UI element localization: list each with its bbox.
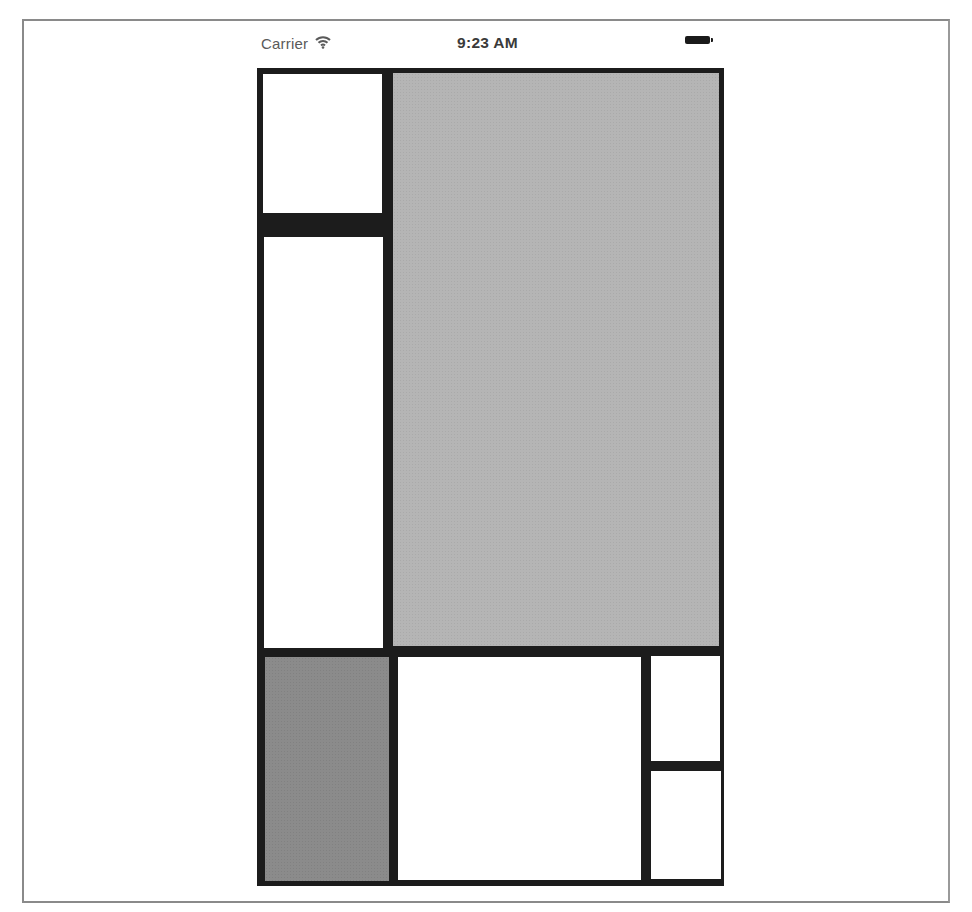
bottom-right-top-view [651,656,720,761]
clock-time: 9:23 AM [457,34,518,52]
bottom-right-bottom-view [651,771,721,879]
bottom-middle-view [398,657,641,880]
mondrian-layout-container [257,68,724,886]
bottom-left-view [265,657,389,881]
battery-full-icon [685,36,710,44]
top-left-view [263,74,382,213]
left-tall-view [264,237,383,648]
wifi-icon [315,35,331,49]
status-bar: Carrier 9:23 AM [255,28,730,58]
carrier-label: Carrier [261,35,308,52]
main-view [393,73,719,646]
battery-tip-icon [711,38,713,42]
